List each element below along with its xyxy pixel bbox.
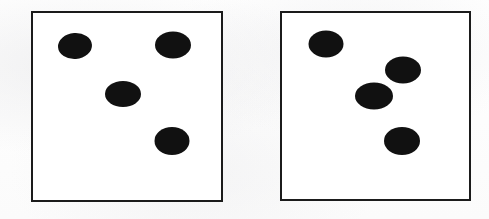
right-dot-3 <box>355 83 393 110</box>
dot-layer <box>0 0 489 219</box>
figure-root <box>0 0 489 219</box>
left-dot-3 <box>105 81 141 107</box>
right-dot-4 <box>384 127 420 155</box>
left-dot-2 <box>155 32 191 59</box>
right-dot-1 <box>309 31 344 58</box>
left-dot-4 <box>155 127 190 155</box>
right-dot-2 <box>385 57 421 84</box>
left-dot-1 <box>57 32 93 60</box>
